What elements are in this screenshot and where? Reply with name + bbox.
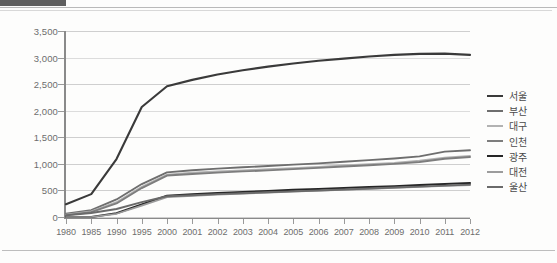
y-axis-tick xyxy=(58,84,64,85)
series-line xyxy=(66,150,470,214)
legend-swatch-icon xyxy=(487,171,503,173)
x-axis-tick xyxy=(420,219,421,224)
y-axis-tick-label: 2,000 xyxy=(0,105,58,116)
y-axis-tick-label: 3,000 xyxy=(0,52,58,63)
legend-item[interactable]: 대전 xyxy=(487,164,555,179)
legend-item-label: 대전 xyxy=(509,164,527,179)
x-axis-tick xyxy=(445,219,446,224)
legend-item[interactable]: 대구 xyxy=(487,118,555,133)
y-axis-tick xyxy=(58,190,64,191)
y-axis-tick-label: 500 xyxy=(0,185,58,196)
y-axis-tick-label: 2,500 xyxy=(0,79,58,90)
plot-area xyxy=(66,31,470,217)
bottom-divider xyxy=(2,250,555,251)
y-axis-tick-label: 3,500 xyxy=(0,26,58,37)
x-axis-tick xyxy=(91,219,92,224)
y-axis-tick xyxy=(58,31,64,32)
legend-item-label: 대구 xyxy=(509,118,527,133)
legend-swatch-icon xyxy=(487,155,503,157)
x-axis-tick xyxy=(293,219,294,224)
x-axis-tick xyxy=(369,219,370,224)
legend-item-label: 울산 xyxy=(509,179,527,194)
x-axis-tick xyxy=(218,219,219,224)
x-axis-tick xyxy=(243,219,244,224)
x-axis-tick xyxy=(117,219,118,224)
legend-swatch-icon xyxy=(487,186,503,188)
series-line xyxy=(66,54,470,205)
line-chart: 05001,0001,5002,0002,5003,0003,500 19801… xyxy=(0,12,557,248)
x-axis-tick xyxy=(394,219,395,224)
top-divider xyxy=(0,7,557,8)
y-axis-tick xyxy=(58,217,64,218)
legend-item[interactable]: 부산 xyxy=(487,103,555,118)
legend-swatch-icon xyxy=(487,95,503,97)
series-line xyxy=(66,185,470,217)
top-divider-secondary xyxy=(0,10,552,11)
legend-item-label: 서울 xyxy=(509,88,527,103)
legend-item[interactable]: 인천 xyxy=(487,134,555,149)
chart-legend: 서울부산대구인천광주대전울산 xyxy=(487,88,555,194)
x-axis-tick xyxy=(142,219,143,224)
x-axis-tick xyxy=(470,219,471,224)
x-axis-tick xyxy=(167,219,168,224)
legend-item[interactable]: 서울 xyxy=(487,88,555,103)
legend-swatch-icon xyxy=(487,110,503,112)
legend-swatch-icon xyxy=(487,125,503,127)
y-axis-tick-label: 1,000 xyxy=(0,158,58,169)
legend-swatch-icon xyxy=(487,140,503,142)
x-axis-tick xyxy=(268,219,269,224)
legend-item-label: 인천 xyxy=(509,134,527,149)
y-axis-tick xyxy=(58,137,64,138)
x-axis-tick xyxy=(319,219,320,224)
y-axis-tick xyxy=(58,58,64,59)
legend-item-label: 부산 xyxy=(509,103,527,118)
gridline xyxy=(66,217,470,218)
x-axis-tick xyxy=(192,219,193,224)
x-axis-tick xyxy=(344,219,345,224)
y-axis-tick-label: 1,500 xyxy=(0,132,58,143)
scan-artifact-bar xyxy=(0,0,66,6)
y-axis-tick xyxy=(58,164,64,165)
legend-item-label: 광주 xyxy=(509,149,527,164)
x-axis-tick xyxy=(66,219,67,224)
y-axis-tick xyxy=(58,111,64,112)
series-lines xyxy=(66,31,470,217)
y-axis-tick-label: 0 xyxy=(0,212,58,223)
legend-item[interactable]: 광주 xyxy=(487,149,555,164)
x-axis-tick-label: 2012 xyxy=(453,227,487,237)
legend-item[interactable]: 울산 xyxy=(487,179,555,194)
